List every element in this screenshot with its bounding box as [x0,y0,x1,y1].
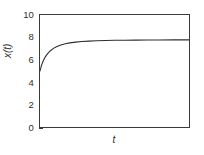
y-axis-tick-labels: 10 8 6 4 2 0 [0,0,34,155]
y-tick-label-2: 2 [6,100,34,110]
y-tick-label-0: 0 [6,123,34,133]
x-axis-label: t [0,134,204,145]
data-curve [40,15,189,127]
y-tick-label-10: 10 [6,10,34,20]
y-axis-label: x(t) [2,44,13,58]
plot-area [39,14,190,128]
x-axis-label-text: t [89,134,116,145]
y-tick-label-8: 8 [6,32,34,42]
y-tick-label-4: 4 [6,78,34,88]
chart-figure: 10 8 6 4 2 0 x(t) t [0,0,204,155]
series-line-x-of-t [40,40,189,71]
y-tick-mark-0 [39,128,43,129]
